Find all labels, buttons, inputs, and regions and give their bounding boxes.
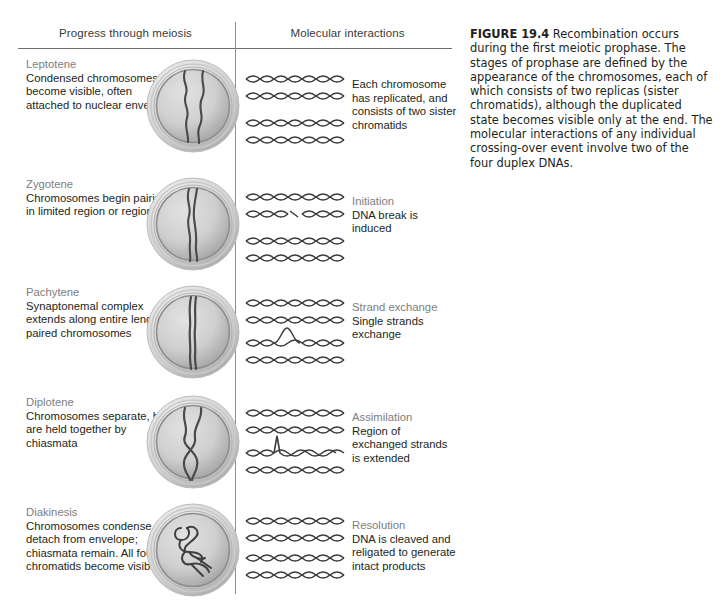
stage-description: Chromosomes condense, detach from envelo… [26, 520, 159, 573]
stage-row: Leptotene Condensed chromosomes become v… [0, 58, 460, 176]
molecular-text-block: Resolution DNA is cleaved and religated … [352, 519, 458, 573]
molecular-title: Initiation [352, 195, 458, 209]
molecular-text-block: Strand exchange Single strands exchange [352, 301, 458, 342]
molecular-text-block: Assimilation Region of exchanged strands… [352, 411, 458, 465]
nucleus-illustration-zygotene [145, 176, 241, 272]
molecular-description: Single strands exchange [352, 315, 424, 341]
nucleus-illustration-diakinesis [145, 502, 241, 598]
molecular-title: Resolution [352, 519, 458, 533]
column-header-molecular-interactions: Molecular interactions [250, 27, 445, 39]
nucleus-illustration-leptotene [145, 58, 241, 154]
figure-caption-label: FIGURE 19.4 [470, 27, 549, 41]
dna-illustration-resolution [244, 514, 348, 600]
dna-illustration-strand-exchange [244, 296, 348, 382]
molecular-text-block: Initiation DNA break is induced [352, 195, 458, 236]
molecular-description: Region of exchanged strands is extended [352, 425, 447, 464]
stage-row: Pachytene Synaptonemal complex extends a… [0, 286, 460, 396]
molecular-title: Strand exchange [352, 301, 458, 315]
nucleus-illustration-pachytene [145, 284, 241, 380]
molecular-text-block: Each chromosome has replicated, and cons… [352, 78, 458, 132]
stage-row: Zygotene Chromosomes begin pairing in li… [0, 178, 460, 286]
figure-19-4: Progress through meiosis Molecular inter… [0, 0, 725, 603]
dna-illustration-break [244, 190, 348, 276]
molecular-description: DNA break is induced [352, 209, 418, 235]
nucleus-illustration-diplotene [145, 394, 241, 490]
dna-illustration-four-duplexes [244, 72, 348, 158]
column-header-progress-through-meiosis: Progress through meiosis [18, 27, 233, 39]
stage-row: Diakinesis Chromosomes condense, detach … [0, 506, 460, 602]
dna-illustration-assimilation [244, 406, 348, 492]
figure-caption: FIGURE 19.4 Recombination occurs during … [470, 27, 714, 170]
stage-row: Diplotene Chromosomes separate, but are … [0, 396, 460, 506]
molecular-title: Assimilation [352, 411, 458, 425]
figure-caption-text: Recombination occurs during the first me… [470, 27, 713, 170]
molecular-description: Each chromosome has replicated, and cons… [352, 78, 456, 131]
molecular-description: DNA is cleaved and religated to generate… [352, 533, 456, 572]
